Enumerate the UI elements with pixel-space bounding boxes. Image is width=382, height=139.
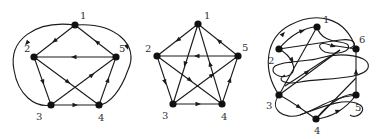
graph-left: 12345 bbox=[13, 10, 131, 123]
vertex-5 bbox=[352, 91, 359, 98]
edge bbox=[268, 18, 356, 95]
vertex-label: 1 bbox=[323, 14, 329, 25]
vertex-label: 3 bbox=[36, 111, 42, 122]
arrowhead-icon bbox=[40, 79, 46, 86]
vertex-label: 2 bbox=[145, 43, 151, 54]
figure-canvas: 12345 12345 123456 bbox=[0, 0, 382, 139]
vertex-label: 2 bbox=[268, 55, 274, 66]
graph-middle: 12345 bbox=[145, 10, 248, 122]
graph-right: 123456 bbox=[266, 14, 368, 136]
vertex-label: 4 bbox=[221, 111, 227, 122]
edge bbox=[173, 56, 238, 104]
edge bbox=[275, 95, 356, 116]
arrowhead-icon bbox=[227, 76, 233, 83]
arrowhead-icon bbox=[196, 102, 202, 106]
vertex-1 bbox=[194, 20, 201, 27]
arrowhead-icon bbox=[194, 54, 200, 58]
arrowhead-icon bbox=[71, 55, 77, 59]
vertex-3 bbox=[47, 101, 54, 108]
vertex-1 bbox=[313, 23, 320, 30]
edge bbox=[273, 49, 368, 83]
arrowhead-icon bbox=[207, 60, 213, 67]
vertex-3 bbox=[169, 100, 176, 107]
arrowhead-icon bbox=[73, 103, 79, 107]
vertex-6 bbox=[352, 45, 359, 52]
vertex-label: 3 bbox=[162, 110, 168, 121]
vertex-4 bbox=[218, 100, 225, 107]
vertex-4 bbox=[95, 101, 102, 108]
arrowhead-icon bbox=[354, 69, 358, 75]
vertex-label: 4 bbox=[314, 125, 320, 136]
vertex-label: 4 bbox=[98, 112, 104, 123]
vertex-label: 6 bbox=[359, 34, 365, 45]
edge bbox=[279, 40, 354, 49]
vertex-2 bbox=[30, 53, 37, 60]
vertex-label: 5 bbox=[119, 43, 125, 54]
vertex-3 bbox=[275, 91, 282, 98]
vertex-label: 5 bbox=[242, 42, 248, 53]
vertex-5 bbox=[234, 52, 241, 59]
vertex-label: 5 bbox=[355, 102, 361, 113]
vertex-1 bbox=[71, 21, 78, 28]
vertex-label: 1 bbox=[204, 10, 210, 21]
vertex-label: 3 bbox=[266, 100, 272, 111]
arrowhead-icon bbox=[105, 76, 111, 83]
vertex-5 bbox=[112, 53, 119, 60]
vertex-2 bbox=[153, 52, 160, 59]
vertex-label: 1 bbox=[80, 10, 86, 21]
vertex-label: 2 bbox=[24, 43, 30, 54]
vertex-4 bbox=[312, 115, 319, 122]
arrowhead-icon bbox=[162, 79, 168, 86]
vertex-2 bbox=[275, 45, 282, 52]
